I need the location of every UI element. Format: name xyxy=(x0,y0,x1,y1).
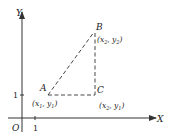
point-c-coords: (x2, y1) xyxy=(99,101,125,111)
point-a-coords: (x1, y1) xyxy=(32,99,58,109)
point-b-coords: (x2, y2) xyxy=(97,35,123,45)
point-a-label: A xyxy=(39,83,47,93)
point-b-label: B xyxy=(95,22,103,32)
y-axis-label: Y xyxy=(16,8,23,18)
x-axis-label: X xyxy=(156,114,164,124)
x-tick-label: 1 xyxy=(33,124,38,133)
segment-ab xyxy=(48,32,94,95)
point-c-label: C xyxy=(97,85,104,95)
y-tick-label: 1 xyxy=(13,91,18,100)
coordinate-diagram: Y X O 1 1 B (x2, y2) A (x1, y1) C (x2, y… xyxy=(0,0,171,138)
origin-label: O xyxy=(12,123,20,133)
